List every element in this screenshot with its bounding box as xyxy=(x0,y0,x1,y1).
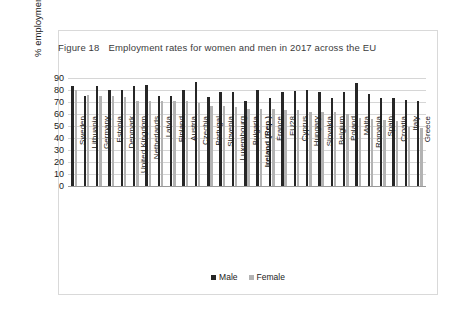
bar-female[interactable] xyxy=(284,110,286,186)
bar-female[interactable] xyxy=(297,110,299,186)
y-tick-50: 50 xyxy=(54,121,64,131)
bar-female[interactable] xyxy=(247,109,249,186)
y-tick-10: 10 xyxy=(54,169,64,179)
x-axis-label: Poland xyxy=(349,116,358,190)
figure-title-text: Employment rates for women and men in 20… xyxy=(108,42,376,53)
x-label-slot: United Kingdom xyxy=(130,189,142,267)
figure-number: Figure 18 xyxy=(58,42,99,53)
x-axis-label: Slovakia xyxy=(325,116,334,190)
legend-label-female: Female xyxy=(257,272,285,282)
bar-female[interactable] xyxy=(186,101,188,186)
x-axis-label: Malta xyxy=(362,116,371,190)
x-axis-label: Slovenia xyxy=(226,116,235,190)
x-axis-label: Cyprus xyxy=(300,116,309,190)
bar-female[interactable] xyxy=(173,101,175,186)
x-label-slot: Slovakia xyxy=(315,189,327,267)
x-label-slot: Latvia xyxy=(154,189,166,267)
x-label-slot: Germany xyxy=(93,189,105,267)
x-label-slot: Romania xyxy=(364,189,376,267)
x-label-slot: France xyxy=(266,189,278,267)
bar-female[interactable] xyxy=(223,106,225,186)
bar-female[interactable] xyxy=(334,112,336,186)
x-label-slot: Bulgaria xyxy=(241,189,253,267)
y-axis-label: % employment rate xyxy=(32,0,43,74)
y-tick-90: 90 xyxy=(54,73,64,83)
y-tick-80: 80 xyxy=(54,85,64,95)
x-label-slot: Spain xyxy=(377,189,389,267)
x-label-slot: Hungary xyxy=(303,189,315,267)
y-tick-60: 60 xyxy=(54,109,64,119)
bar-female[interactable] xyxy=(260,109,262,186)
y-tick-30: 30 xyxy=(54,145,64,155)
x-axis-label: Croatia xyxy=(399,116,408,190)
x-label-slot: Portugal xyxy=(204,189,216,267)
x-label-slot: Czechia xyxy=(191,189,203,267)
figure-title: Figure 18Employment rates for women and … xyxy=(58,42,438,53)
x-label-slot: Austria xyxy=(179,189,191,267)
y-tick-20: 20 xyxy=(54,157,64,167)
bar-female[interactable] xyxy=(112,96,114,186)
bar-female[interactable] xyxy=(87,95,89,186)
x-axis-label: France xyxy=(275,116,284,190)
x-label-slot: Poland xyxy=(340,189,352,267)
x-label-slot: Luxembourg xyxy=(228,189,240,267)
bar-female[interactable] xyxy=(210,106,212,186)
legend-swatch-male xyxy=(211,275,216,280)
x-axis-label: Lithuania xyxy=(90,116,99,190)
bar-male[interactable] xyxy=(71,86,73,186)
x-axis-label: Denmark xyxy=(127,116,136,190)
x-label-slot: Malta xyxy=(352,189,364,267)
y-tick-0: 0 xyxy=(59,181,64,191)
bar-female[interactable] xyxy=(408,127,410,186)
x-label-slot: Netherlands xyxy=(142,189,154,267)
x-label-slot: Italy xyxy=(401,189,413,267)
x-axis-label: Latvia xyxy=(164,116,173,190)
x-axis-label: Luxembourg xyxy=(238,116,247,190)
x-axis-label: Sweden xyxy=(78,116,87,190)
x-label-slot: Finland xyxy=(167,189,179,267)
x-label-slot: Denmark xyxy=(117,189,129,267)
x-axis-label: Netherlands xyxy=(152,116,161,190)
x-axis-label: Hungary xyxy=(312,116,321,190)
y-tick-70: 70 xyxy=(54,97,64,107)
legend-label-male: Male xyxy=(219,272,237,282)
bar-female[interactable] xyxy=(359,118,361,186)
y-tick-40: 40 xyxy=(54,133,64,143)
x-label-slot: EU28 xyxy=(278,189,290,267)
x-axis-label: United Kingdom xyxy=(139,116,148,190)
x-axis-label: Belgium xyxy=(337,116,346,190)
x-label-slot: Belgium xyxy=(327,189,339,267)
legend-item-male[interactable]: Male xyxy=(211,272,237,282)
x-axis-label: Germany xyxy=(102,116,111,190)
x-axis-label: Austria xyxy=(189,116,198,190)
x-label-slot: Sweden xyxy=(68,189,80,267)
x-label-slot: Estonia xyxy=(105,189,117,267)
x-label-slot: Slovenia xyxy=(216,189,228,267)
x-axis-label: Spain xyxy=(386,116,395,190)
x-axis-label: Portugal xyxy=(214,116,223,190)
x-axis-label: Estonia xyxy=(115,116,124,190)
bar-female[interactable] xyxy=(149,101,151,186)
legend-swatch-female xyxy=(249,275,254,280)
x-axis-label: Bulgaria xyxy=(251,116,260,190)
bar-female[interactable] xyxy=(396,121,398,186)
bar-female[interactable] xyxy=(371,119,373,186)
x-label-slot: Ireland (Rep.) xyxy=(253,189,265,267)
x-label-slot: Cyprus xyxy=(290,189,302,267)
y-axis-ticks: 0102030405060708090 xyxy=(46,72,64,192)
bar-female[interactable] xyxy=(321,112,323,186)
x-label-slot: Croatia xyxy=(389,189,401,267)
x-axis-label: Romania xyxy=(374,116,383,190)
x-axis-label: Ireland (Rep.) xyxy=(263,116,272,190)
x-label-slot: Greece xyxy=(414,189,426,267)
x-axis-labels: SwedenLithuaniaGermanyEstoniaDenmarkUnit… xyxy=(68,189,426,267)
x-label-slot: Lithuania xyxy=(80,189,92,267)
x-axis-label: Greece xyxy=(423,116,432,190)
x-axis-label: Finland xyxy=(177,116,186,190)
chart-legend: Male Female xyxy=(58,272,438,282)
bar-female[interactable] xyxy=(75,90,77,186)
x-axis-label: EU28 xyxy=(288,116,297,190)
legend-item-female[interactable]: Female xyxy=(249,272,285,282)
x-axis-label: Czechia xyxy=(201,116,210,190)
x-axis-label: Italy xyxy=(411,116,420,190)
